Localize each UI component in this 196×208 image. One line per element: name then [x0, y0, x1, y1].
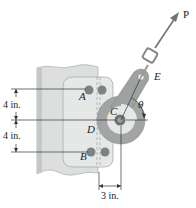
- dim-lower-4in: 4 in.: [3, 130, 21, 141]
- label-b: B: [80, 150, 87, 162]
- label-theta: θ: [138, 98, 144, 110]
- dim-upper-4in: 4 in.: [3, 99, 21, 110]
- label-e: E: [153, 70, 161, 82]
- bracket-diagram: A B C D E P θ 4 in. 4 in. 3 in.: [0, 0, 196, 208]
- label-a: A: [78, 90, 86, 102]
- label-p: P: [183, 8, 189, 20]
- label-c: C: [110, 105, 118, 117]
- label-d: D: [86, 123, 95, 135]
- dim-3in: 3 in.: [101, 190, 119, 201]
- force-arrow-p: [155, 12, 179, 48]
